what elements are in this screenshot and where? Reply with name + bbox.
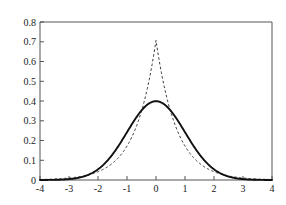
ytick-label: 0.3 bbox=[24, 115, 37, 126]
xtick-label: -1 bbox=[123, 183, 131, 194]
xtick-label: 4 bbox=[270, 183, 275, 194]
figure-container: 0 0.1 0.2 0.3 0.4 0.5 0.6 0.7 0.8 -4 -3 … bbox=[0, 0, 286, 205]
laplace-density-curve bbox=[40, 40, 272, 179]
ytick-label: 0.8 bbox=[24, 17, 37, 28]
ytick-label: 0.7 bbox=[24, 36, 37, 47]
ytick-label: 0.5 bbox=[24, 76, 37, 87]
density-comparison-chart: 0 0.1 0.2 0.3 0.4 0.5 0.6 0.7 0.8 -4 -3 … bbox=[0, 0, 286, 205]
ytick-label: 0.6 bbox=[24, 56, 37, 67]
xtick-label: 1 bbox=[183, 183, 188, 194]
xtick-label: -3 bbox=[65, 183, 73, 194]
xtick-label: 2 bbox=[212, 183, 217, 194]
y-axis-ticks bbox=[40, 22, 44, 180]
xtick-label: 3 bbox=[241, 183, 246, 194]
xtick-label: -2 bbox=[94, 183, 102, 194]
y-axis-labels: 0 0.1 0.2 0.3 0.4 0.5 0.6 0.7 0.8 bbox=[24, 17, 37, 186]
gaussian-density-curve bbox=[40, 101, 272, 180]
ytick-label: 0.2 bbox=[24, 135, 37, 146]
ytick-label: 0.1 bbox=[24, 155, 37, 166]
xtick-label: -4 bbox=[36, 183, 44, 194]
xtick-label: 0 bbox=[154, 183, 159, 194]
x-axis-labels: -4 -3 -2 -1 0 1 2 3 4 bbox=[36, 183, 275, 194]
ytick-label: 0.4 bbox=[24, 96, 37, 107]
